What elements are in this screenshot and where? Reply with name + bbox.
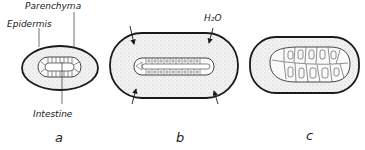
intestine-label: Intestine [33, 109, 73, 119]
figure-canvas: Parenchyma Epidermis Intestine a [0, 0, 365, 150]
water-label: H₂O [204, 13, 221, 23]
panel-b: H₂O b [110, 13, 238, 145]
panel-a: Parenchyma Epidermis Intestine a [7, 1, 98, 145]
panel-b-label: b [176, 130, 184, 145]
parenchyma-label: Parenchyma [25, 1, 81, 11]
panel-a-label: a [55, 130, 63, 145]
epidermis-label: Epidermis [7, 19, 52, 29]
panel-c: c [250, 37, 359, 143]
panel-c-label: c [306, 128, 313, 143]
